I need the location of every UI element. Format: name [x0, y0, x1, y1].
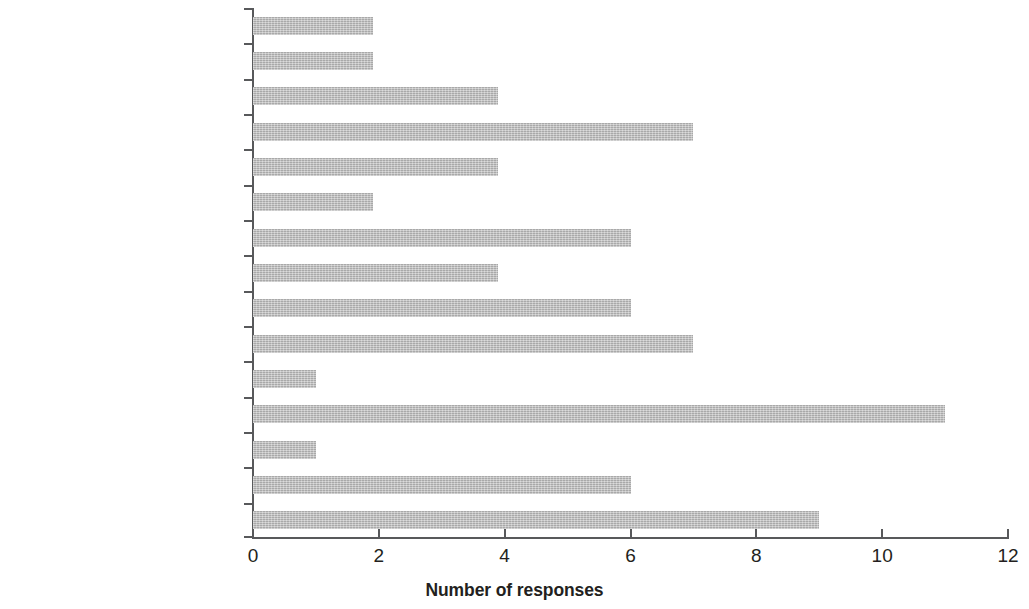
bar — [253, 123, 693, 141]
bar — [253, 476, 631, 494]
y-axis-tick — [244, 397, 253, 399]
plot-area: Written communicationPeople managementMo… — [253, 8, 1008, 538]
horizontal-bar-chart: Written communicationPeople managementMo… — [0, 0, 1029, 609]
bar — [253, 511, 819, 529]
y-axis-tick — [244, 220, 253, 222]
x-axis-tick-label: 8 — [726, 546, 786, 565]
chart-category-row: Creativity — [253, 326, 1008, 361]
chart-category-row: Computer literacy — [253, 467, 1008, 502]
x-axis-title: Number of responses — [0, 580, 1029, 601]
x-axis-tick-label: 0 — [223, 546, 283, 565]
bar — [253, 87, 498, 105]
y-axis-tick — [244, 8, 253, 10]
y-axis-tick — [244, 79, 253, 81]
y-axis-tick — [244, 43, 253, 45]
chart-category-row: Discipline specific training — [253, 397, 1008, 432]
bar — [253, 17, 373, 35]
chart-category-row: Time management — [253, 432, 1008, 467]
x-axis-tick — [378, 529, 380, 539]
bar — [253, 299, 631, 317]
x-axis-tick — [755, 529, 757, 539]
chart-category-row: Written communication — [253, 8, 1008, 43]
bar — [253, 158, 498, 176]
chart-category-row: Work ethic — [253, 255, 1008, 290]
chart-category-row: Entrepreneurship — [253, 291, 1008, 326]
x-axis-tick-label: 10 — [852, 546, 912, 565]
y-axis-tick — [244, 467, 253, 469]
bar — [253, 405, 945, 423]
chart-category-row: Leadership — [253, 114, 1008, 149]
x-axis-tick — [1007, 529, 1009, 539]
bar — [253, 264, 498, 282]
x-axis-tick-label: 6 — [601, 546, 661, 565]
y-axis-tick — [244, 326, 253, 328]
x-axis-tick — [630, 529, 632, 539]
x-axis-tick — [252, 529, 254, 539]
x-axis-tick — [881, 529, 883, 539]
y-axis-tick — [244, 291, 253, 293]
bar — [253, 441, 316, 459]
bar — [253, 335, 693, 353]
bar — [253, 370, 316, 388]
chart-category-row: Problem solving — [253, 149, 1008, 184]
bar — [253, 229, 631, 247]
x-axis-tick-label: 4 — [475, 546, 535, 565]
bar — [253, 52, 373, 70]
y-axis-tick — [244, 255, 253, 257]
bar — [253, 193, 373, 211]
x-axis-tick — [504, 529, 506, 539]
y-axis-tick — [244, 185, 253, 187]
y-axis-tick — [244, 503, 253, 505]
x-axis-tick-label: 2 — [349, 546, 409, 565]
chart-category-row: Discipline specific theory — [253, 361, 1008, 396]
y-axis-tick — [244, 149, 253, 151]
chart-category-row: Motivation — [253, 79, 1008, 114]
y-axis-tick — [244, 361, 253, 363]
chart-category-row: People management — [253, 43, 1008, 78]
y-axis-tick — [244, 432, 253, 434]
y-axis-tick — [244, 114, 253, 116]
chart-category-row: Oral communication — [253, 185, 1008, 220]
chart-category-row: Teamwork — [253, 220, 1008, 255]
x-axis-tick-label: 12 — [978, 546, 1029, 565]
